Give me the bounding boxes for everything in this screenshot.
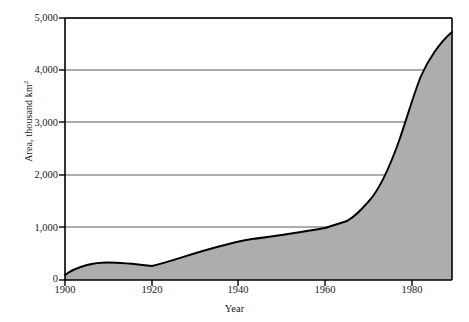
y-axis-ticks <box>59 18 65 280</box>
chart-svg <box>0 0 469 322</box>
area-series <box>65 32 452 280</box>
chart-figure: Area, thousand km2 5,000 4,000 3,000 2,0… <box>0 0 469 322</box>
x-axis-ticks <box>65 280 412 286</box>
